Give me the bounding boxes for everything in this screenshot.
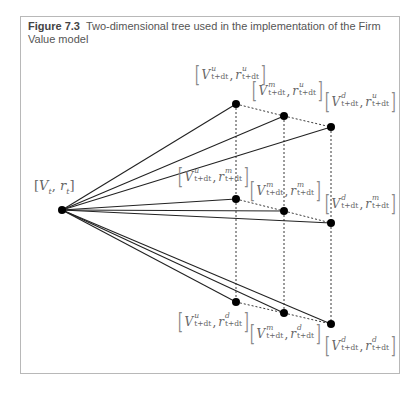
bracket-open: [ [325, 91, 330, 113]
node-dm [327, 219, 335, 227]
root-node [58, 206, 66, 214]
edge-md [62, 210, 284, 313]
tree-nodes [58, 100, 335, 328]
node-md [280, 309, 288, 317]
edge-dm [62, 210, 331, 223]
edge-dd [62, 210, 331, 324]
bracket-close: ] [391, 193, 396, 215]
node-um [232, 195, 240, 203]
bracket-open: [ [252, 80, 257, 102]
bracket-open: [ [178, 166, 183, 188]
node-label-mm: [Vmt+dt,rmt+dt] [248, 180, 323, 202]
node-uu [232, 100, 240, 108]
node-mu [280, 112, 288, 120]
tree-edges [62, 104, 331, 324]
edge-um [62, 199, 236, 210]
node-label-dm: [Vdt+dt,rmt+dt] [323, 193, 398, 215]
node-label-ud: [Vut+dt,rdt+dt] [176, 311, 251, 333]
bracket-close: ] [316, 180, 321, 202]
node-label-dd: [Vdt+dt,rdt+dt] [323, 335, 398, 357]
bracket-open: [ [325, 335, 330, 357]
node-label-mu: [Vmt+dt,rut+dt] [250, 80, 325, 102]
bracket-close: ] [391, 91, 396, 113]
bracket-open: [ [250, 323, 255, 345]
bracket-open: [ [195, 64, 200, 86]
node-dd [327, 320, 335, 328]
edge-uu [62, 104, 236, 210]
dashed-link-mu-du [284, 116, 331, 127]
node-ud [232, 298, 240, 306]
bracket-open: [ [178, 311, 183, 333]
edge-mm [62, 210, 284, 211]
bracket-open: [ [250, 180, 255, 202]
node-label-um: [Vut+dt,rmt+dt] [176, 166, 251, 188]
node-mm [280, 207, 288, 215]
root-node-label: [Vt, rt] [34, 178, 74, 196]
bracket-open: [ [325, 193, 330, 215]
bracket-close: ] [316, 323, 321, 345]
edge-ud [62, 210, 236, 302]
node-label-md: [Vmt+dt,rdt+dt] [248, 323, 323, 345]
node-label-du: [Vdt+dt,rut+dt] [323, 91, 398, 113]
dashed-link-uu-mu [236, 104, 284, 116]
bracket-close: ] [391, 335, 396, 357]
node-du [327, 123, 335, 131]
